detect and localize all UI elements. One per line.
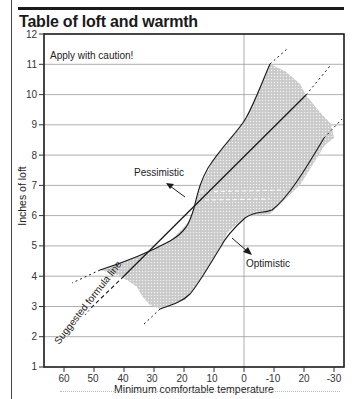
svg-text:5: 5 [31,240,37,251]
svg-text:7: 7 [31,180,37,191]
svg-text:20: 20 [298,373,310,384]
svg-text:8: 8 [31,150,37,161]
formula-line-label: Suggested formula line [52,259,124,347]
svg-text:60: 60 [58,373,70,384]
svg-text:50: 50 [87,373,99,384]
svg-text:9: 9 [31,119,37,130]
pessimistic-label: Pessimistic [134,167,184,178]
svg-text:3: 3 [31,301,37,312]
svg-text:2: 2 [31,331,37,342]
loft-warmth-chart: 1 2 3 4 5 6 7 8 9 10 11 12 60 50 40 30 2… [0,0,356,399]
svg-text:6: 6 [31,210,37,221]
y-axis-title: Inches of loft [16,166,28,226]
svg-text:4: 4 [31,271,37,282]
cropped-caption-text [60,391,340,393]
svg-text:11: 11 [27,59,38,70]
svg-text:12: 12 [26,29,38,40]
comfort-band-shading [100,64,334,309]
svg-text:1: 1 [31,361,37,372]
svg-text:-30: -30 [327,373,342,384]
optimistic-arrow-icon [232,238,252,255]
x-axis-title: Minimum comfortable temperature [114,383,274,395]
svg-text:10: 10 [26,89,38,100]
caution-note: Apply with caution! [50,50,133,61]
optimistic-label: Optimistic [246,258,290,269]
